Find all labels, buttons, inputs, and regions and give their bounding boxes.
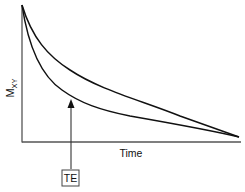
y-axis-label-main: M bbox=[4, 88, 16, 97]
relaxation-diagram: TE Time MXY bbox=[0, 0, 245, 192]
y-axis-label: MXY bbox=[4, 78, 19, 97]
y-axis-label-subscript: XY bbox=[10, 78, 19, 88]
arrow-head-icon bbox=[68, 99, 75, 108]
te-label: TE bbox=[64, 172, 77, 184]
lower-decay-curve bbox=[22, 5, 239, 137]
upper-decay-curve bbox=[22, 5, 239, 137]
x-axis-label: Time bbox=[120, 147, 143, 159]
